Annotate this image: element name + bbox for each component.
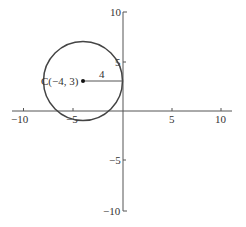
y-tick-label: 10 — [110, 6, 122, 18]
x-tick-label: 5 — [169, 113, 175, 125]
x-tick-label: 10 — [215, 113, 227, 125]
center-label: C(−4, 3) — [41, 75, 79, 88]
x-tick-label: −10 — [11, 113, 29, 125]
radius-label: 4 — [99, 68, 105, 80]
center-point — [81, 79, 85, 83]
y-tick-label: −10 — [103, 205, 121, 217]
y-tick-label: −5 — [109, 154, 121, 166]
coordinate-plane: −10 −5 5 10 10 5 −5 −10 C(−4, 3) 4 — [0, 0, 246, 227]
